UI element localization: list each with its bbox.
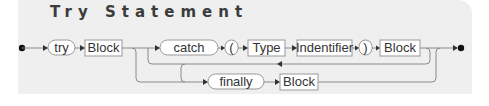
terminal-catch: catch [160, 40, 218, 55]
arrow-right-icon [80, 45, 85, 51]
svg-text:finally: finally [219, 74, 253, 89]
terminal-finally: finally [208, 74, 264, 89]
svg-text:(: ( [229, 40, 234, 55]
nonterminal-block: Block [85, 40, 122, 56]
svg-text:Block: Block [283, 74, 315, 89]
svg-text:Indentifier: Indentifier [296, 40, 354, 55]
connector [181, 64, 185, 82]
nonterminal-identifier: Indentifier [296, 40, 354, 56]
svg-text:catch: catch [173, 40, 204, 55]
arrow-right-icon [203, 79, 208, 85]
terminal-right-paren: ) [359, 40, 372, 55]
arrow-right-icon [355, 46, 359, 51]
terminal-left-paren: ( [225, 40, 238, 55]
svg-text:try: try [54, 40, 69, 55]
terminal-try: try [48, 40, 75, 55]
railroad-diagram: try Block catch ( Type Indentifier [0, 0, 489, 106]
arrow-right-icon [221, 46, 225, 51]
svg-text:Type: Type [252, 40, 280, 55]
nonterminal-block: Block [380, 40, 420, 56]
nonterminal-type: Type [248, 40, 285, 56]
nonterminal-block: Block [280, 74, 318, 90]
arrow-right-icon [43, 45, 48, 51]
svg-text:Block: Block [88, 40, 120, 55]
end-dot-icon [458, 45, 464, 51]
svg-text:Block: Block [384, 40, 416, 55]
arrow-right-icon [275, 79, 280, 85]
arrow-left-icon [277, 61, 282, 67]
svg-text:): ) [363, 40, 367, 55]
arrow-right-icon [376, 46, 380, 51]
arrow-right-icon [453, 45, 458, 51]
arrow-right-icon [155, 45, 160, 51]
arrow-right-icon [243, 45, 248, 51]
